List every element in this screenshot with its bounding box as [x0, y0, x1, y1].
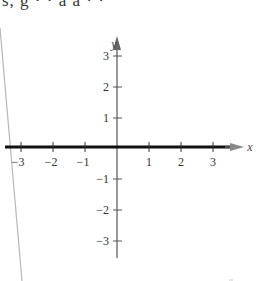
y-tick-label: −1 [96, 172, 109, 186]
y-tick-label: 2 [103, 80, 109, 94]
y-axis-label: y [110, 37, 117, 51]
y-tick-label: 3 [103, 49, 109, 63]
x-axis-label: x [246, 140, 253, 154]
x-tick-label: −2 [45, 155, 58, 169]
y-tick-label: −3 [96, 234, 109, 248]
x-tick-label: −3 [12, 155, 25, 169]
x-axis: x [5, 140, 253, 154]
y-tick-label: −2 [96, 203, 109, 217]
coordinate-plane: y 3 2 1 −1 −2 −3 x −3 −2 −1 1 2 3 [0, 0, 258, 281]
x-tick-label: 2 [178, 155, 184, 169]
x-tick-label: 3 [210, 155, 216, 169]
x-axis-arrow-icon [230, 143, 244, 151]
x-tick-label: 1 [146, 155, 152, 169]
y-tick-label: 1 [103, 111, 109, 125]
x-tick-labels: −3 −2 −1 1 2 3 [12, 155, 216, 169]
x-tick-label: −1 [77, 155, 90, 169]
